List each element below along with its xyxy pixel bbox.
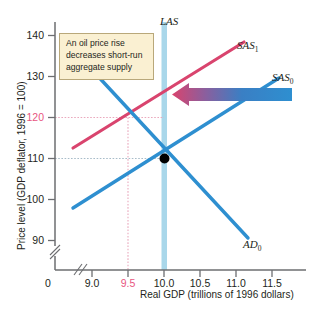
x-tick-10-5: 10.5 <box>185 277 215 289</box>
y-tick-100: 100 <box>16 193 44 205</box>
x-tick-11-0: 11.0 <box>221 277 251 289</box>
y-tick-110: 110 <box>16 152 44 164</box>
equilibrium-dot <box>160 154 170 164</box>
aggregate-supply-demand-chart: Price level (GDP deflator, 1996 = 100) R… <box>0 0 324 314</box>
las-label-text: LAS <box>160 15 178 27</box>
x-axis-title: Real GDP (trillions of 1996 dollars) <box>140 289 294 300</box>
y-axis-title: Price level (GDP deflator, 1996 = 100) <box>16 81 27 250</box>
x-tick-9-0: 9.0 <box>77 277 107 289</box>
y-tick-90: 90 <box>16 234 44 246</box>
sas1-label-text: SAS <box>237 39 255 51</box>
x-tick-11-5: 11.5 <box>257 277 287 289</box>
supply-shift-arrow <box>172 83 292 106</box>
sas0-label-text: SAS <box>272 71 290 83</box>
sas0-label: SAS0 <box>272 71 293 86</box>
x-tick-10-0: 10.0 <box>149 277 179 289</box>
sas1-label-sub: 1 <box>255 45 259 54</box>
annotation-line-3: aggregate supply <box>66 62 148 74</box>
ad0-label-text: AD <box>243 238 258 250</box>
x-tick-0: 0 <box>33 277 63 289</box>
ad0-label: AD0 <box>243 238 261 253</box>
las-label: LAS <box>160 15 178 27</box>
sas0-label-sub: 0 <box>290 77 294 86</box>
dashed-guide-lines <box>55 118 164 271</box>
annotation-line-1: An oil price rise <box>66 38 148 50</box>
x-tick-9-5: 9.5 <box>113 277 143 289</box>
sas1-label: SAS1 <box>237 39 258 54</box>
annotation-line-2: decreases short-run <box>66 50 148 62</box>
y-tick-130: 130 <box>16 70 44 82</box>
annotation-callout: An oil price rise decreases short-run ag… <box>59 33 154 80</box>
y-tick-140: 140 <box>16 29 44 41</box>
y-tick-120: 120 <box>16 111 44 123</box>
chart-canvas <box>0 0 324 314</box>
ad0-label-sub: 0 <box>258 244 262 253</box>
